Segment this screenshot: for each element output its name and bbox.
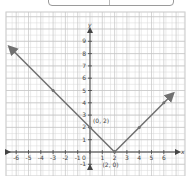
x-axis-label: x [180, 148, 185, 155]
y-tick-label: 8 [82, 50, 86, 57]
y-tick-label: -1 [80, 160, 86, 167]
grid [6, 12, 185, 176]
plotted-point [89, 126, 92, 129]
y-tick-label: 2 [82, 123, 86, 130]
annotation-2-0: (2, 0) [103, 161, 119, 168]
plotted-point [138, 126, 141, 129]
x-tick-label: 1 [100, 154, 104, 161]
annotation-0-2: (0, 2) [93, 117, 109, 124]
x-tick-label: -6 [13, 154, 19, 161]
x-tick-label: -2 [62, 154, 68, 161]
y-tick-label: 6 [82, 74, 86, 81]
plotted-point [113, 151, 116, 154]
y-tick-label: 4 [82, 99, 86, 106]
x-tick-label: -4 [38, 154, 44, 161]
plotted-point [52, 89, 55, 92]
y-tick-label: 7 [82, 62, 86, 69]
y-tick-label: 5 [82, 87, 86, 94]
y-tick-label: 3 [82, 111, 86, 118]
x-tick-label: 5 [150, 154, 154, 161]
x-tick-label: -5 [26, 154, 32, 161]
graph-y-equals-abs-x-minus-2: xy-6-5-4-3-2-10123456-1123456789(0, 2)(2… [0, 0, 190, 176]
y-tick-label: 9 [82, 37, 86, 44]
x-tick-label: -3 [50, 154, 56, 161]
x-tick-label: 2 [113, 154, 117, 161]
x-tick-label: 6 [162, 154, 166, 161]
plotted-point [162, 101, 165, 104]
y-tick-label: 1 [82, 136, 86, 143]
x-tick-label: 4 [137, 154, 141, 161]
y-axis-label: y [87, 21, 92, 29]
x-tick-label: 3 [125, 154, 129, 161]
